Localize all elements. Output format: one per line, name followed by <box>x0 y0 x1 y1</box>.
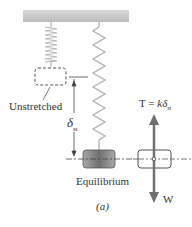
unstretched-mass-outline <box>35 68 66 85</box>
delta-subscript: st <box>73 125 78 133</box>
static-deflection-label: δst <box>67 116 78 133</box>
spring-mass-diagram: Unstretched δst T = kδst Equilibrium W (… <box>0 0 192 227</box>
unstretched-spring <box>45 22 57 67</box>
figure-caption: (a) <box>96 201 109 212</box>
free-body-diagram <box>133 150 192 168</box>
stretched-spring <box>93 22 105 150</box>
tension-prefix: T = <box>139 97 157 109</box>
unstretched-label: Unstretched <box>9 101 62 112</box>
ceiling-support <box>23 10 129 22</box>
tension-subscript: st <box>167 105 171 111</box>
weight-label: W <box>163 194 173 205</box>
unstretched-leader-line <box>43 87 50 100</box>
center-of-mass-point <box>152 157 156 161</box>
equilibrium-label: Equilibrium <box>76 176 129 187</box>
tension-label: T = kδst <box>139 98 171 111</box>
